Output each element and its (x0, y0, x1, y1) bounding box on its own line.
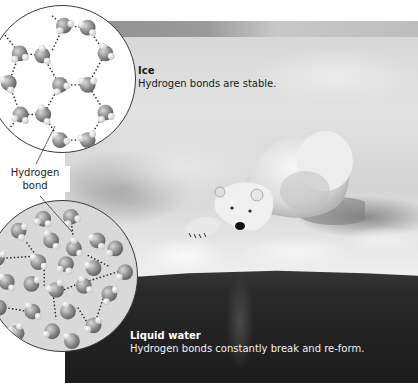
liquid-water-inset (0, 200, 138, 352)
ice-caption: Ice Hydrogen bonds are stable. (138, 64, 276, 90)
hydrogen-bond-callout: Hydrogen bond (0, 166, 70, 192)
ice-lattice-inset (0, 5, 136, 153)
liquid-water-description: Hydrogen bonds constantly break and re-f… (130, 342, 364, 355)
figure-ice-vs-liquid-water: Hydrogen bond Ice Hydrogen bonds are sta… (0, 0, 418, 386)
ice-description: Hydrogen bonds are stable. (138, 77, 276, 90)
liquid-water-caption: Liquid water Hydrogen bonds constantly b… (130, 329, 364, 355)
ice-title: Ice (138, 64, 276, 77)
polar-bear-icon (185, 116, 365, 256)
callout-line-1: Hydrogen (0, 166, 70, 179)
liquid-water-title: Liquid water (130, 329, 364, 342)
callout-line-2: bond (0, 179, 70, 192)
